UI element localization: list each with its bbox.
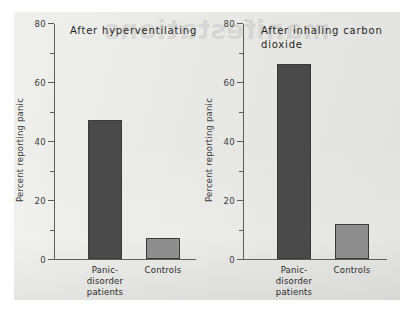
y-tick-major — [237, 141, 243, 142]
y-tick-minor — [50, 171, 54, 172]
y-tick-major — [237, 200, 243, 201]
y-tick-major — [48, 200, 54, 201]
y-axis-label: Percent reporting panic — [15, 98, 25, 202]
x-tick-label: Panic- disorder patients — [265, 265, 323, 298]
plot-area: 020406080 Panic- disorder patientsContro… — [243, 18, 387, 260]
y-tick-label: 0 — [40, 255, 46, 265]
x-tick-label: Controls — [134, 265, 192, 276]
x-axis-line — [243, 259, 387, 260]
y-tick-label: 40 — [35, 137, 46, 147]
y-tick-minor — [239, 230, 243, 231]
y-tick-label: 60 — [224, 78, 235, 88]
y-tick-major — [237, 82, 243, 83]
x-tick-label: Panic- disorder patients — [76, 265, 134, 298]
y-tick-major — [48, 259, 54, 260]
y-axis-line — [243, 24, 244, 260]
y-tick-minor — [50, 112, 54, 113]
y-tick-label: 20 — [224, 196, 235, 206]
y-tick-label: 0 — [229, 255, 235, 265]
y-tick-label: 60 — [35, 78, 46, 88]
x-tick-label: Controls — [323, 265, 381, 276]
y-tick-label: 80 — [35, 19, 46, 29]
y-tick-major — [237, 23, 243, 24]
y-tick-label: 40 — [224, 137, 235, 147]
bar — [146, 238, 180, 259]
y-tick-minor — [239, 171, 243, 172]
bar — [277, 64, 311, 259]
y-tick-label: 20 — [35, 196, 46, 206]
y-tick-major — [48, 141, 54, 142]
y-tick-minor — [50, 230, 54, 231]
y-tick-minor — [50, 53, 54, 54]
bar — [335, 224, 369, 259]
y-axis-line — [54, 24, 55, 260]
y-tick-major — [48, 82, 54, 83]
chart-panel-hyperventilating: Percent reporting panic After hyperventi… — [18, 12, 204, 288]
y-tick-major — [237, 259, 243, 260]
figure: manifestations Percent reporting panic A… — [0, 0, 414, 314]
y-tick-major — [48, 23, 54, 24]
x-axis-line — [54, 259, 196, 260]
y-tick-minor — [239, 112, 243, 113]
plot-area: 020406080 Panic- disorder patientsContro… — [54, 18, 196, 260]
y-tick-label: 80 — [224, 19, 235, 29]
bar — [88, 120, 122, 259]
chart-panel-carbon-dioxide: Percent reporting panic After inhaling c… — [205, 12, 395, 288]
y-axis-label: Percent reporting panic — [204, 98, 214, 202]
y-tick-minor — [239, 53, 243, 54]
